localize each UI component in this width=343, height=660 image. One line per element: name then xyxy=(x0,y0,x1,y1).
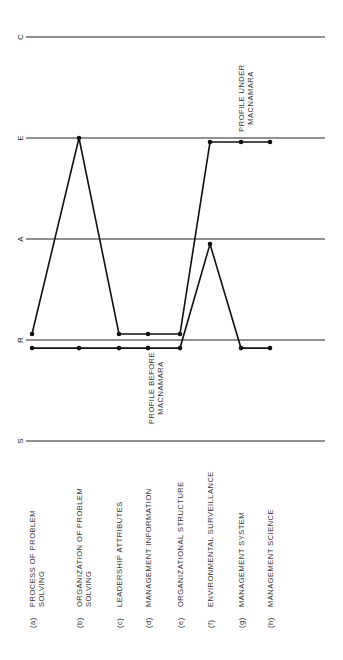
data-point xyxy=(268,346,273,351)
category-label: SOLVING xyxy=(84,571,93,607)
category-label: MANAGEMENT SYSTEM xyxy=(237,512,246,607)
category-label: ENVIRONMENTAL SURVEILLANCE xyxy=(206,471,215,607)
profile-under-line xyxy=(32,138,270,334)
profile-before-label: MACNAMARA xyxy=(156,361,165,414)
category-id: (e) xyxy=(176,617,185,628)
category-id: (h) xyxy=(266,617,275,628)
data-point xyxy=(239,140,244,145)
profile-chart: SRAEC PROFILE UNDERMACNAMARAPROFILE BEFO… xyxy=(0,0,343,660)
data-point xyxy=(77,346,82,351)
data-point xyxy=(268,140,273,145)
category-id: (f) xyxy=(206,619,215,628)
category-label: ORGANIZATIONAL STRUCTURE xyxy=(176,481,185,607)
data-point xyxy=(208,140,213,145)
data-point xyxy=(178,346,183,351)
level-label-s: S xyxy=(16,438,25,443)
data-point xyxy=(146,332,151,337)
category-label: MANAGEMENT SCIENCE xyxy=(266,509,275,607)
data-point xyxy=(239,346,244,351)
category-label: SOLVING xyxy=(37,571,46,607)
profile-before-line xyxy=(32,244,270,348)
category-id: (c) xyxy=(115,618,124,628)
category-id: (b) xyxy=(75,617,84,628)
data-point xyxy=(117,332,122,337)
level-label-a: A xyxy=(16,236,25,242)
profile-under-label: MACNAMARA xyxy=(246,71,255,124)
level-label-c: C xyxy=(16,34,25,40)
data-point xyxy=(178,332,183,337)
category-labels: (a)PROCESS OF PROBLEMSOLVING(b)ORGANIZAT… xyxy=(28,471,275,628)
category-label: MANAGEMENT INFORMATION xyxy=(144,488,153,607)
category-id: (a) xyxy=(28,617,37,628)
data-point xyxy=(30,332,35,337)
category-label: LEADERSHIP ATTRIBUTES xyxy=(115,501,124,607)
profile-before-label: PROFILE BEFORE xyxy=(147,352,156,424)
category-id: (g) xyxy=(237,617,246,628)
data-point xyxy=(146,346,151,351)
data-point xyxy=(117,346,122,351)
level-label-e: E xyxy=(16,135,25,140)
data-point xyxy=(208,242,213,247)
profile-series xyxy=(30,136,273,351)
data-point xyxy=(77,136,82,141)
category-label: PROCESS OF PROBLEM xyxy=(28,510,37,607)
profile-under-label: PROFILE UNDER xyxy=(237,64,246,131)
data-point xyxy=(30,346,35,351)
level-label-r: R xyxy=(16,337,25,343)
category-id: (d) xyxy=(144,617,153,628)
level-lines: SRAEC xyxy=(16,34,325,444)
series-annotations: PROFILE UNDERMACNAMARAPROFILE BEFOREMACN… xyxy=(147,64,255,424)
category-label: ORGANIZATION OF PROBLEM xyxy=(75,488,84,607)
